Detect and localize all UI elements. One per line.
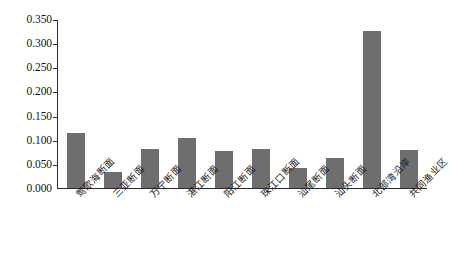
- y-tick-label: 0.200: [27, 87, 52, 99]
- y-tick-mark: [53, 68, 58, 69]
- x-label-slot: 三亚断面: [95, 190, 132, 258]
- y-tick-label: 0.150: [27, 111, 52, 123]
- y-axis-labels: 0.3500.3000.2500.2000.1500.1000.0500.000: [0, 0, 56, 258]
- x-label-slot: 莺歌海断面: [58, 190, 95, 258]
- y-tick-label: 0.350: [27, 14, 52, 26]
- x-label-slot: 湛江断面: [169, 190, 206, 258]
- x-axis-labels: 莺歌海断面三亚断面万宁断面湛江断面阳江断面珠江口断面汕尾断面汕头断面北部湾沿岸共…: [58, 190, 427, 258]
- bar: [363, 31, 381, 188]
- y-tick-label: 0.000: [27, 183, 52, 195]
- y-tick-mark: [53, 44, 58, 45]
- y-tick-mark: [53, 92, 58, 93]
- bar: [67, 133, 85, 188]
- y-tick-mark: [53, 165, 58, 166]
- y-tick-mark: [53, 20, 58, 21]
- y-tick-label: 0.050: [27, 159, 52, 171]
- y-tick-label: 0.300: [27, 38, 52, 50]
- y-tick-label: 0.250: [27, 63, 52, 75]
- y-tick-mark: [53, 117, 58, 118]
- bar-slot: [353, 20, 390, 188]
- x-label-slot: 阳江断面: [206, 190, 243, 258]
- y-tick-mark: [53, 141, 58, 142]
- bar-slot: [58, 20, 95, 188]
- x-label-slot: 珠江口断面: [243, 190, 280, 258]
- x-label-slot: 汕头断面: [316, 190, 353, 258]
- x-label-slot: 万宁断面: [132, 190, 169, 258]
- x-label-slot: 共同渔业区: [390, 190, 427, 258]
- y-tick-label: 0.100: [27, 135, 52, 147]
- x-label-slot: 北部湾沿岸: [353, 190, 390, 258]
- x-label-slot: 汕尾断面: [279, 190, 316, 258]
